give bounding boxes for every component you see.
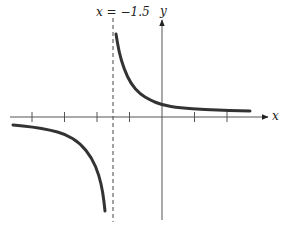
x-axis-label: x bbox=[272, 109, 279, 123]
function-curves bbox=[13, 34, 250, 211]
asymptote-label-text: x = −1.5 bbox=[96, 5, 150, 19]
right-branch-curve bbox=[116, 34, 250, 111]
axes bbox=[10, 20, 268, 220]
chart-plot-area bbox=[0, 0, 288, 233]
left-branch-curve bbox=[13, 125, 105, 211]
y-axis-label: y bbox=[160, 4, 167, 18]
asymptote-label: x = −1.5 bbox=[96, 5, 150, 19]
